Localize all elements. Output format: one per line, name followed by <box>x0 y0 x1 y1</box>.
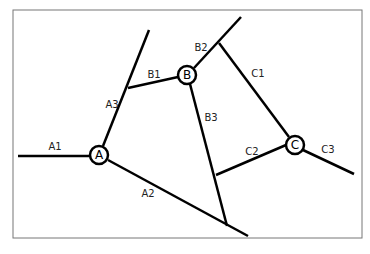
node-label-c: C <box>291 138 299 152</box>
node-b: B <box>178 66 196 84</box>
edge-label-a1: A1 <box>48 141 61 152</box>
network-diagram: A1 A2 A3 B1 B2 B3 C1 C2 C3 A B C <box>0 0 370 254</box>
edge-label-c2: C2 <box>245 146 258 157</box>
edge-b3 <box>190 84 227 226</box>
node-c: C <box>286 136 304 154</box>
node-label-a: A <box>95 148 104 162</box>
edge-label-b2: B2 <box>194 42 207 53</box>
edge-label-a3: A3 <box>105 99 118 110</box>
node-a: A <box>90 146 108 164</box>
edge-label-b1: B1 <box>147 69 160 80</box>
edge-a3 <box>103 30 149 146</box>
edge-label-a2: A2 <box>141 188 154 199</box>
edge-c1 <box>219 43 289 137</box>
node-label-b: B <box>183 68 191 82</box>
edge-label-b3: B3 <box>204 112 217 123</box>
edge-label-c3: C3 <box>321 144 334 155</box>
edge-label-c1: C1 <box>251 68 264 79</box>
